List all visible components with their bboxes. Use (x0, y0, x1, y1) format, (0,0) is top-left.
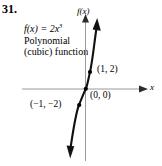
x-axis-arrowhead-icon (139, 85, 148, 92)
point-marker-1-2 (88, 70, 92, 74)
point-marker-0-0 (84, 87, 88, 91)
x-axis-label: x (150, 82, 154, 92)
graph-canvas (0, 0, 162, 166)
textbook-figure: 31. f(x) = 2x3 Polynomial (cubic) functi… (0, 0, 162, 166)
point-marker-neg1-neg2 (77, 103, 81, 107)
point-label-0-0: (0, 0) (90, 90, 111, 100)
curve-top-arrowhead-icon (93, 18, 101, 31)
y-axis-label: f(x) (77, 6, 90, 16)
cubic-curve (71, 28, 97, 148)
curve-bottom-arrowhead-icon (67, 146, 75, 159)
point-label-neg1-neg2: (−1, −2) (30, 99, 61, 109)
point-label-1-2: (1, 2) (97, 64, 118, 74)
